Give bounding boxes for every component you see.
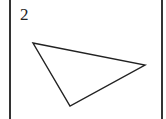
triangle-shape	[33, 43, 145, 106]
triangle-figure	[0, 0, 166, 119]
